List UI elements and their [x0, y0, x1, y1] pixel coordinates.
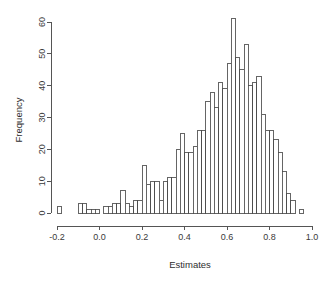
- histogram-bar: [83, 203, 87, 213]
- x-axis-tick-label: -0.2: [49, 232, 65, 242]
- histogram-bar: [206, 102, 210, 213]
- histogram-bar: [299, 210, 303, 213]
- histogram-bar: [121, 191, 125, 213]
- histogram-bar: [87, 210, 91, 213]
- histogram-bar: [244, 44, 248, 213]
- histogram-bar: [214, 108, 218, 213]
- histogram-bar: [91, 210, 95, 213]
- x-axis-tick-label: 0.0: [93, 232, 106, 242]
- histogram-bar: [151, 181, 155, 213]
- x-axis-tick-label: 0.2: [136, 232, 149, 242]
- histogram-bar: [278, 153, 282, 213]
- histogram-bar: [193, 146, 197, 213]
- histogram-bar: [104, 207, 108, 213]
- histogram-bar: [257, 76, 261, 213]
- y-axis-tick-label: 0: [37, 210, 47, 215]
- histogram-bar: [57, 207, 61, 213]
- histogram-bar: [155, 181, 159, 213]
- histogram-bar: [197, 130, 201, 213]
- y-axis-tick-label: 10: [37, 176, 47, 186]
- histogram-bar: [185, 153, 189, 213]
- histogram-bar: [95, 210, 99, 213]
- histogram-bar: [202, 130, 206, 213]
- x-axis-tick-label: 0.6: [221, 232, 234, 242]
- histogram-bar: [172, 178, 176, 213]
- histogram-bar: [117, 203, 121, 213]
- histogram-bar: [240, 70, 244, 213]
- histogram-bar: [282, 172, 286, 213]
- histogram-bar: [138, 200, 142, 213]
- plot-canvas: 0102030405060 -0.20.00.20.40.60.81.0 Est…: [0, 0, 332, 282]
- histogram-bar: [78, 203, 82, 213]
- histogram-bar: [142, 165, 146, 213]
- histogram-bar: [231, 19, 235, 213]
- histogram-bar: [210, 92, 214, 213]
- x-axis-tick-label: 0.8: [263, 232, 276, 242]
- histogram-bar: [291, 200, 295, 213]
- x-axis-title: Estimates: [169, 259, 211, 270]
- histogram-bar: [176, 149, 180, 213]
- y-axis-tick-label: 60: [37, 17, 47, 27]
- y-axis-tick-label: 40: [37, 81, 47, 91]
- histogram-bar: [223, 89, 227, 213]
- y-axis-tick-label: 30: [37, 112, 47, 122]
- y-axis-tick-label: 50: [37, 49, 47, 59]
- histogram-bar: [159, 200, 163, 213]
- histogram-bar: [146, 184, 150, 213]
- histogram-bar: [227, 63, 231, 213]
- histogram-bar: [274, 140, 278, 213]
- histogram-bar: [129, 207, 133, 213]
- histogram-bar: [180, 133, 184, 213]
- histogram-bar: [108, 207, 112, 213]
- histogram-bar: [134, 200, 138, 213]
- histogram-bar: [287, 194, 291, 213]
- histogram-bar: [163, 181, 167, 213]
- histogram-bar: [270, 130, 274, 213]
- histogram-bar: [125, 203, 129, 213]
- histogram-bar: [248, 86, 252, 213]
- histogram-bar: [112, 203, 116, 213]
- x-axis-tick-label: 0.4: [178, 232, 191, 242]
- histogram-bar: [236, 57, 240, 213]
- histogram-bar: [265, 130, 269, 213]
- histogram-bar: [168, 178, 172, 213]
- histogram-bar: [189, 153, 193, 213]
- histogram-bar: [219, 82, 223, 213]
- y-axis-title: Frequency: [13, 97, 24, 142]
- y-axis-tick-label: 20: [37, 144, 47, 154]
- x-axis-tick-label: 1.0: [306, 232, 319, 242]
- histogram-plot: 0102030405060 -0.20.00.20.40.60.81.0 Est…: [0, 0, 332, 282]
- histogram-bar: [253, 82, 257, 213]
- histogram-bar: [261, 114, 265, 213]
